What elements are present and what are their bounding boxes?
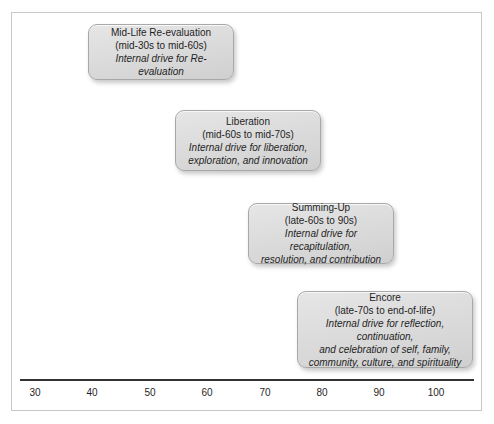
stage-age-range: (mid-60s to mid-70s) xyxy=(202,128,294,141)
x-axis-tick: 30 xyxy=(29,386,40,400)
stage-age-range: (late-60s to 90s) xyxy=(285,214,357,227)
stage-description: Internal drive for reflection, continuat… xyxy=(304,317,466,369)
stage-age-range: (mid-30s to mid-60s) xyxy=(115,39,207,52)
stage-box-mid-life-re-evaluation[interactable]: Mid-Life Re-evaluation (mid-30s to mid-6… xyxy=(88,24,234,80)
stage-description: Internal drive for liberation,exploratio… xyxy=(188,141,308,167)
x-axis-tick: 60 xyxy=(201,386,212,400)
x-axis-tick: 80 xyxy=(316,386,327,400)
x-axis-tick: 90 xyxy=(373,386,384,400)
stage-description: Internal drive for Re-evaluation xyxy=(95,52,227,78)
stage-age-range: (late-70s to end-of-life) xyxy=(335,304,436,317)
stage-title: Liberation xyxy=(226,115,270,128)
x-axis-tick: 100 xyxy=(428,386,445,400)
x-axis-line xyxy=(20,379,474,381)
stage-title: Mid-Life Re-evaluation xyxy=(111,26,211,39)
x-axis-tick: 40 xyxy=(86,386,97,400)
x-axis-tick-labels: 30 40 50 60 70 80 90 100 xyxy=(0,386,494,402)
plot-area: Mid-Life Re-evaluation (mid-30s to mid-6… xyxy=(0,0,494,424)
stage-box-liberation[interactable]: Liberation (mid-60s to mid-70s) Internal… xyxy=(175,110,321,171)
x-axis-tick: 70 xyxy=(259,386,270,400)
stage-box-encore[interactable]: Encore (late-70s to end-of-life) Interna… xyxy=(297,291,473,368)
x-axis-tick: 50 xyxy=(144,386,155,400)
stage-title: Encore xyxy=(369,291,401,304)
stage-description: Internal drive for recapitulation,resolu… xyxy=(255,227,387,266)
life-stages-diagram: Mid-Life Re-evaluation (mid-30s to mid-6… xyxy=(0,0,494,424)
stage-box-summing-up[interactable]: Summing-Up (late-60s to 90s) Internal dr… xyxy=(248,203,394,264)
stage-title: Summing-Up xyxy=(292,201,350,214)
